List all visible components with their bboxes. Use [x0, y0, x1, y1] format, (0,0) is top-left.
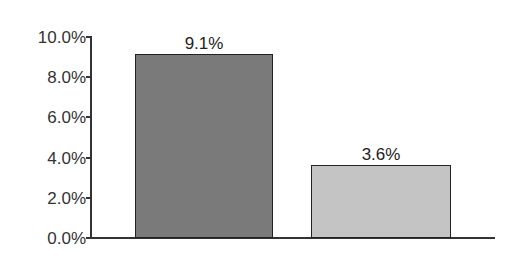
bar-2-value-label: 3.6%: [311, 146, 451, 163]
y-tick-label: 6.0%: [47, 109, 86, 126]
bar-1: [135, 54, 273, 238]
y-tick-label: 10.0%: [38, 29, 86, 46]
y-tick: [86, 116, 91, 118]
y-tick: [86, 197, 91, 199]
y-tick: [86, 36, 91, 38]
y-tick: [86, 76, 91, 78]
y-tick: [86, 157, 91, 159]
bar-chart: 0.0% 2.0% 4.0% 6.0% 8.0% 10.0% 9.1% 3.6%: [0, 0, 514, 270]
y-tick-label: 8.0%: [47, 69, 86, 86]
y-axis: [90, 36, 92, 239]
y-tick: [86, 237, 91, 239]
bar-1-value-label: 9.1%: [135, 35, 273, 52]
bar-2: [311, 165, 451, 238]
y-tick-label: 0.0%: [47, 230, 86, 247]
y-tick-label: 2.0%: [47, 190, 86, 207]
y-tick-label: 4.0%: [47, 150, 86, 167]
